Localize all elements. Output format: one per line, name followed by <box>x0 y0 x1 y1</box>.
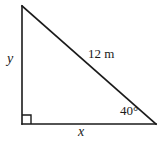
geometry-figure: y x 12 m 40° <box>0 0 166 142</box>
right-angle-marker-icon <box>22 115 31 124</box>
horizontal-leg-label: x <box>78 125 84 139</box>
angle-measure-label: 40° <box>120 104 138 117</box>
triangle-drawing <box>0 0 166 142</box>
vertical-leg-label: y <box>7 52 13 66</box>
hypotenuse-length-label: 12 m <box>88 47 114 60</box>
